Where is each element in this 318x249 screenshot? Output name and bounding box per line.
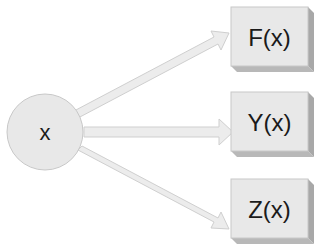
source-node-x: x xyxy=(7,94,83,170)
target-node-label: F(x) xyxy=(248,24,291,51)
arrow-x-to-z xyxy=(78,146,229,229)
target-node-y: Y(x) xyxy=(231,92,314,157)
arrow-x-to-f xyxy=(74,31,229,118)
source-node-label: x xyxy=(40,120,51,145)
target-node-label: Z(x) xyxy=(248,196,291,223)
target-node-f: F(x) xyxy=(231,7,314,72)
target-node-label: Y(x) xyxy=(248,109,292,136)
target-node-z: Z(x) xyxy=(231,179,314,244)
arrow-x-to-y xyxy=(84,119,233,145)
function-mapping-diagram: x F(x) Y(x) Z(x) xyxy=(0,0,318,249)
